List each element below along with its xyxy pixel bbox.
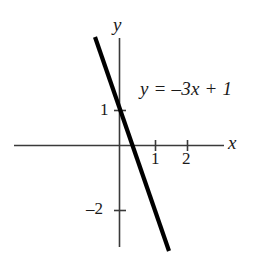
line-y-equals-minus-3x-plus-1 bbox=[95, 37, 169, 251]
y-axis-label: y bbox=[113, 15, 121, 34]
y-tick-label-1: 1 bbox=[100, 101, 109, 118]
coordinate-plane bbox=[0, 0, 253, 257]
x-tick-label-1: 1 bbox=[151, 150, 160, 167]
x-axis-label: x bbox=[228, 133, 236, 152]
equation-annotation: y = –3x + 1 bbox=[140, 79, 232, 98]
y-tick-label-negative-2: –2 bbox=[86, 200, 103, 217]
x-tick-label-2: 2 bbox=[182, 150, 191, 167]
graph-figure: y x 1 –2 1 2 y = –3x + 1 bbox=[0, 0, 253, 257]
